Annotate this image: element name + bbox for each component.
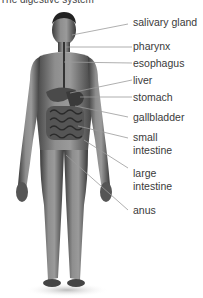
- label-large-intestine-line1: large: [133, 167, 156, 179]
- label-pharynx: pharynx: [133, 40, 170, 52]
- label-esophagus: esophagus: [133, 57, 184, 69]
- right-leg: [64, 150, 88, 280]
- label-small-intestine-line1: small: [133, 131, 158, 143]
- label-large-intestine-line2: intestine: [133, 180, 172, 192]
- label-gallbladder: gallbladder: [133, 111, 184, 123]
- label-stomach: stomach: [133, 91, 173, 103]
- label-salivary-gland: salivary gland: [133, 16, 197, 28]
- left-arm: [18, 57, 40, 190]
- left-leg: [40, 150, 64, 280]
- label-small-intestine-line2: intestine: [133, 144, 172, 156]
- label-liver: liver: [133, 74, 152, 86]
- label-anus: anus: [133, 204, 156, 216]
- human-body-figure: [0, 0, 203, 298]
- right-arm: [88, 57, 110, 190]
